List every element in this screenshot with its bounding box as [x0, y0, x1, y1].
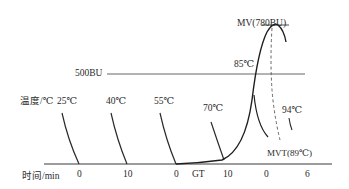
temp-curve-40	[111, 113, 127, 164]
x-tick-5: 0	[264, 170, 269, 180]
temp-marker-55: 55℃	[154, 97, 174, 107]
x-tick-2: 0	[174, 170, 179, 180]
x-tick-6: 6	[305, 170, 310, 180]
x-tick-3: GT	[192, 170, 205, 180]
peak-label: MV(780BU)	[237, 19, 286, 29]
x-axis-label: 时间/min	[22, 172, 59, 182]
amylogram-diagram: 温度/℃ 25℃ 40℃ 55℃ 70℃ 500BU MV(780BU) 85℃…	[0, 0, 349, 189]
x-tick-0: 0	[77, 170, 82, 180]
end-temperature-label: 94℃	[282, 106, 302, 116]
breakdown-curve	[254, 95, 268, 137]
diagram-graphics	[0, 0, 349, 189]
dashed-peak-curve	[271, 28, 280, 140]
temp-marker-40: 40℃	[106, 97, 126, 107]
temp-curve-70	[211, 122, 224, 160]
x-tick-1: 10	[123, 170, 133, 180]
peak-temperature-label: 85℃	[234, 60, 254, 70]
minimum-label: MVT(89℃)	[267, 149, 312, 158]
temp-marker-25: 25℃	[57, 97, 77, 107]
reference-line-label: 500BU	[75, 69, 102, 79]
viscosity-curve	[176, 24, 286, 164]
temp-curve-55	[160, 113, 176, 164]
temp-marker-70: 70℃	[203, 104, 223, 114]
curve-94	[289, 118, 292, 130]
temp-curve-25	[62, 113, 79, 164]
x-tick-4: 10	[223, 170, 233, 180]
y-axis-label: 温度/℃	[20, 97, 53, 107]
